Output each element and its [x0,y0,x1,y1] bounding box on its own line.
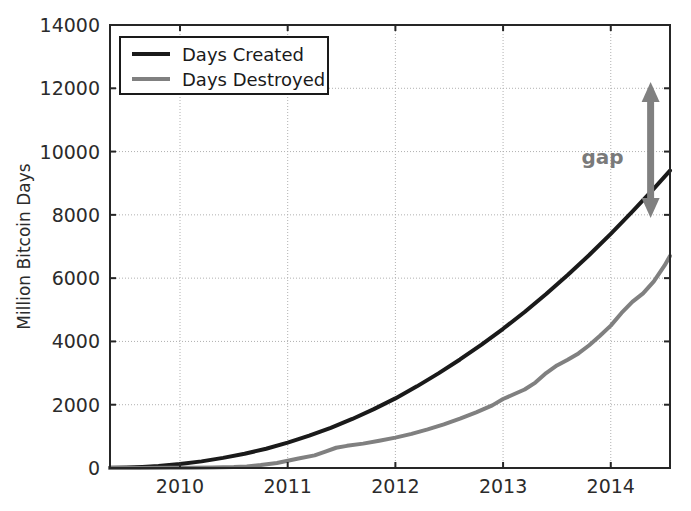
y-tick-label: 14000 [40,14,100,36]
y-tick-label: 0 [88,457,100,479]
y-tick-label: 10000 [40,141,100,163]
x-tick-label: 2012 [371,475,419,497]
y-tick-label: 2000 [52,394,100,416]
y-tick-label: 12000 [40,77,100,99]
y-tick-label: 8000 [52,204,100,226]
y-axis-title: Million Bitcoin Days [14,163,34,329]
gap-annotation-label: gap [582,145,624,169]
y-tick-label: 6000 [52,267,100,289]
legend-label-0: Days Created [182,44,304,65]
x-tick-label: 2010 [156,475,204,497]
chart-figure: gap 20102011201220132014 020004000600080… [0,0,691,511]
x-tick-label: 2013 [479,475,527,497]
y-tick-label: 4000 [52,330,100,352]
line-chart: gap 20102011201220132014 020004000600080… [0,0,691,511]
legend-label-1: Days Destroyed [182,69,325,90]
x-tick-label: 2011 [264,475,312,497]
x-tick-label: 2014 [587,475,635,497]
chart-legend: Days CreatedDays Destroyed [120,37,328,94]
